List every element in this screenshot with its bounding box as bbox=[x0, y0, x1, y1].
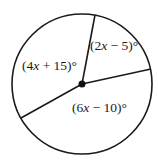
circle-diagram: (2x − 5)° (4x + 15)° (6x − 10)° bbox=[0, 0, 158, 166]
radius-right bbox=[82, 69, 151, 84]
angle-label-2x-minus-5: (2x − 5)° bbox=[90, 38, 138, 53]
center-point bbox=[79, 81, 86, 88]
angle-label-6x-minus-10: (6x − 10)° bbox=[72, 100, 127, 115]
angle-label-4x-plus-15: (4x + 15)° bbox=[22, 58, 77, 73]
